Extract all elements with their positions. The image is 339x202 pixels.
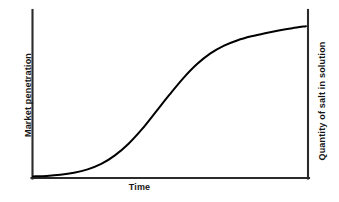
plot-background bbox=[0, 0, 339, 202]
x-axis-label: Time bbox=[0, 183, 309, 192]
y-axis-left-label: Market penetration bbox=[24, 15, 33, 175]
s-curve-plot bbox=[0, 0, 339, 202]
y-axis-right-label: Quantity of salt in solution bbox=[318, 13, 327, 189]
chart-figure: Market penetration Quantity of salt in s… bbox=[0, 0, 339, 202]
